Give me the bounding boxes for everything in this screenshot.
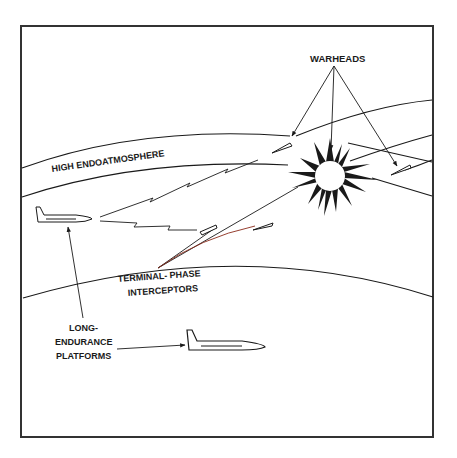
missile-defense-diagram: WARHEADS HIGH ENDOATMOSPHERE TERMINAL- P… [0,0,457,458]
explosion-burst-icon [288,138,378,216]
aircraft-icon [187,330,265,350]
streak-right-1 [348,143,432,162]
interceptor-trail [158,187,298,268]
terminal-phase-label-line1: TERMINAL- PHASE [117,268,200,284]
warhead-icon [253,223,273,230]
beam-paths [100,160,298,268]
interceptor-icon [200,225,217,235]
warhead-icon [272,143,292,153]
upper-atmosphere-arc-right [296,100,432,136]
platforms-label-line3: PLATFORMS [56,351,111,361]
zigzag-beam [100,160,258,217]
warhead-icon [391,165,411,175]
platforms-label-line1: LONG- [69,323,98,333]
terminal-phase-label-line2: INTERCEPTORS [127,283,198,298]
zigzag-beam [100,221,197,230]
aircraft-icon [36,207,92,222]
platforms-label-line2: ENDURANCE [55,337,113,347]
ground-arc [23,266,433,298]
atmosphere-layers [22,100,433,298]
high-endoatmosphere-label: HIGH ENDOATMOSPHERE [51,148,165,174]
streak-right-2 [372,178,432,196]
diagram-frame [21,26,433,437]
warheads-label: WARHEADS [310,53,365,64]
